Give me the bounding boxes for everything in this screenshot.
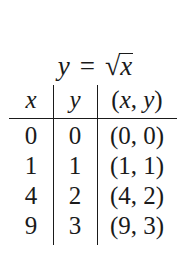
cell-pair: (1, 1) [97,151,177,181]
cell-y: 1 [53,151,97,181]
cell-x: 9 [9,211,53,241]
header-pair: (x, y) [97,84,177,116]
equation-lhs: y [58,51,70,81]
header-pair-close: ) [154,86,162,113]
table-body: 0 0 (0, 0) 1 1 (1, 1) 4 2 (4, 2) 9 3 (9,… [9,121,177,241]
table-row: 1 1 (1, 1) [9,151,177,181]
cell-pair: (9, 3) [97,211,177,241]
cell-pair: (0, 0) [97,121,177,151]
table-header-row: x y (x, y) [9,84,177,116]
equation-title: y=√x [0,50,191,82]
values-table: x y (x, y) [9,84,177,116]
radical-icon: √ [105,50,120,81]
cell-x: 0 [9,121,53,151]
header-pair-y: y [143,86,154,113]
table-row: 0 0 (0, 0) [9,121,177,151]
header-pair-sep: , [131,86,144,113]
cell-y: 3 [53,211,97,241]
table-row: 4 2 (4, 2) [9,181,177,211]
header-x: x [9,84,53,116]
cell-x: 4 [9,181,53,211]
equals-sign: = [80,51,95,81]
header-rule [9,118,177,119]
header-pair-open: ( [111,86,119,113]
radicand: x [119,53,133,78]
cell-pair: (4, 2) [97,181,177,211]
header-y: y [53,84,97,116]
header-pair-x: x [120,86,131,113]
table-row: 9 3 (9, 3) [9,211,177,241]
cell-y: 0 [53,121,97,151]
square-root: √x [105,50,133,82]
cell-y: 2 [53,181,97,211]
cell-x: 1 [9,151,53,181]
